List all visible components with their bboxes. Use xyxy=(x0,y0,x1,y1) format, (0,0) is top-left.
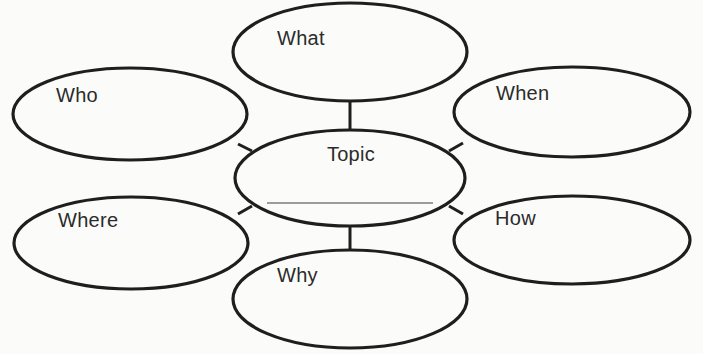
node-ellipse-how[interactable] xyxy=(454,196,690,284)
node-ellipse-when[interactable] xyxy=(454,67,690,157)
node-ellipse-where[interactable] xyxy=(14,197,248,289)
node-label-topic: Topic xyxy=(236,144,466,164)
node-ellipse-what[interactable] xyxy=(233,3,467,101)
node-label-who: Who xyxy=(56,85,98,105)
concept-map-shapes xyxy=(0,0,703,354)
node-label-when: When xyxy=(496,83,549,103)
node-label-how: How xyxy=(495,208,536,228)
node-ellipse-why[interactable] xyxy=(233,250,467,348)
concept-map-canvas: What Who When Where How Why Topic xyxy=(0,0,703,354)
node-label-why: Why xyxy=(277,265,318,285)
node-ellipse-who[interactable] xyxy=(13,68,247,160)
node-label-where: Where xyxy=(58,210,118,230)
node-label-what: What xyxy=(277,28,325,48)
connector-topic-how xyxy=(449,206,463,214)
connector-topic-where xyxy=(238,206,252,214)
